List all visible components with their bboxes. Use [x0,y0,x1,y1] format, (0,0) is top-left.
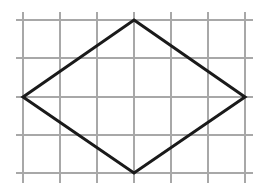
grid-lines [16,12,253,183]
grid-diagram [0,0,261,192]
